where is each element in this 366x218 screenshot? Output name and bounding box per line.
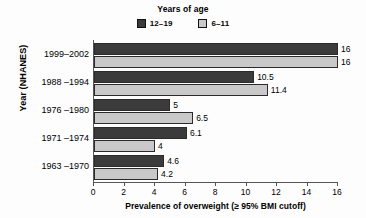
x-axis-title: Prevalence of overweight (≥ 95% BMI cuto… <box>93 201 338 211</box>
bar-row: 4 <box>94 140 163 152</box>
bar-value-label: 4 <box>158 142 163 151</box>
x-axis-tick <box>215 182 216 186</box>
bar-value-label: 11.4 <box>271 86 287 95</box>
bar[interactable] <box>94 140 155 152</box>
bar[interactable] <box>94 168 158 180</box>
y-category-label: 1999–2002 <box>3 49 89 59</box>
x-axis-tick <box>337 182 338 186</box>
bar[interactable] <box>94 99 170 111</box>
legend-label-6-11: 6–11 <box>211 19 229 28</box>
bar[interactable] <box>94 56 338 68</box>
bar-value-label: 4.2 <box>161 170 173 179</box>
legend-item-6-11: 6–11 <box>198 19 229 28</box>
bar[interactable] <box>94 84 268 96</box>
x-axis-tick-label: 6 <box>182 187 187 197</box>
bar-value-label: 4.6 <box>167 157 179 166</box>
x-axis-tick <box>276 182 277 186</box>
x-axis-tick-label: 8 <box>213 187 218 197</box>
bar-value-label: 6.1 <box>190 129 202 138</box>
bar-row: 16 <box>94 43 350 55</box>
x-axis-tick-label: 14 <box>302 187 311 197</box>
x-axis-tick-label: 12 <box>271 187 280 197</box>
y-category-label: 1976 –1980 <box>3 105 89 115</box>
bar[interactable] <box>94 155 164 167</box>
legend-item-12-19: 12–19 <box>137 19 173 28</box>
bar-row: 5 <box>94 99 178 111</box>
x-axis-tick-label: 16 <box>332 187 341 197</box>
y-category-label: 1971 –1974 <box>3 133 89 143</box>
y-category-label: 1988 –1994 <box>3 77 89 87</box>
bar-row: 4.6 <box>94 155 179 167</box>
bar-row: 10.5 <box>94 71 274 83</box>
x-axis-tick <box>93 182 94 186</box>
bar-row: 6.1 <box>94 127 202 139</box>
x-axis-tick <box>185 182 186 186</box>
bar-value-label: 6.5 <box>196 114 208 123</box>
x-axis-tick-label: 2 <box>121 187 126 197</box>
bar-row: 6.5 <box>94 112 208 124</box>
x-axis-tick <box>307 182 308 186</box>
chart-figure: Years of age 12–19 6–11 Year (NHANES) 19… <box>0 0 366 218</box>
bar-value-label: 16 <box>341 58 350 67</box>
x-axis-tick-label: 10 <box>241 187 250 197</box>
x-axis-tick-label: 0 <box>91 187 96 197</box>
legend-title: Years of age <box>0 4 366 14</box>
y-axis-category-labels: 1999–2002 1988 –1994 1976 –1980 1971 –19… <box>0 40 89 182</box>
bar[interactable] <box>94 43 338 55</box>
bar[interactable] <box>94 71 254 83</box>
bar-value-label: 10.5 <box>257 73 274 82</box>
legend-swatch-icon-dark <box>137 19 146 28</box>
x-axis-tick <box>154 182 155 186</box>
bar-value-label: 5 <box>173 101 178 110</box>
chart-legend: 12–19 6–11 <box>0 19 366 28</box>
legend-swatch-icon-light <box>198 19 207 28</box>
bar[interactable] <box>94 112 193 124</box>
plot-area: 161610.511.456.56.144.64.2 0246810121416 <box>93 40 337 182</box>
x-axis-tick-label: 4 <box>152 187 157 197</box>
bar-row: 16 <box>94 56 350 68</box>
x-axis-tick <box>124 182 125 186</box>
bar[interactable] <box>94 127 187 139</box>
legend-label-12-19: 12–19 <box>150 19 173 28</box>
y-category-label: 1963 –1970 <box>3 161 89 171</box>
bar-value-label: 16 <box>341 45 350 54</box>
bar-row: 4.2 <box>94 168 173 180</box>
bar-row: 11.4 <box>94 84 287 96</box>
x-axis-tick <box>246 182 247 186</box>
